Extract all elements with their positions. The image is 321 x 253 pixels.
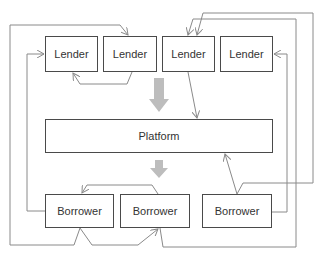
connector-inner-left (27, 54, 45, 211)
platform-node: Platform (45, 119, 273, 153)
connector-bottom (74, 228, 158, 245)
lender-node-1: Lender (45, 36, 98, 72)
lender-label: Lender (54, 48, 88, 60)
lender-node-4: Lender (220, 36, 273, 72)
borrower-label: Borrower (215, 205, 260, 217)
connector-borrower3-lender4 (272, 54, 287, 212)
platform-label: Platform (139, 130, 180, 142)
lender-node-3: Lender (162, 36, 215, 72)
connector-borrower2-borrower1 (82, 185, 158, 194)
borrower-node-2: Borrower (120, 194, 190, 228)
flow-arrow-down-small (150, 160, 168, 178)
connector-lender2-lender1 (73, 72, 132, 84)
lender-label: Lender (229, 48, 263, 60)
borrower-node-1: Borrower (45, 194, 114, 228)
lender-node-2: Lender (103, 36, 157, 72)
connector-borrower3-platform (225, 154, 237, 194)
lender-label: Lender (113, 48, 147, 60)
connector-lender3-platform (188, 72, 197, 118)
borrower-node-3: Borrower (202, 194, 272, 228)
flow-arrow-down-large (149, 78, 169, 112)
lender-label: Lender (171, 48, 205, 60)
borrower-label: Borrower (57, 205, 102, 217)
borrower-label: Borrower (133, 205, 178, 217)
